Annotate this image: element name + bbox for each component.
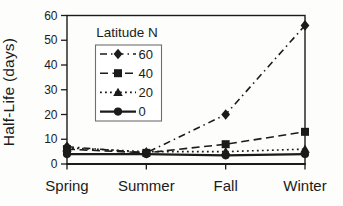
marker-circle xyxy=(142,150,150,158)
y-tick-label: 50 xyxy=(44,33,58,47)
y-tick-label: 60 xyxy=(44,9,58,23)
legend-title: Latitude N xyxy=(96,25,158,40)
legend-entry-label: 20 xyxy=(139,85,153,100)
marker-circle xyxy=(114,108,122,116)
plot-root: 0102030405060SpringSummerFallWinterLatit… xyxy=(44,9,327,194)
y-tick-label: 20 xyxy=(44,108,58,122)
marker-circle xyxy=(63,150,71,158)
x-category-label: Fall xyxy=(214,177,238,194)
y-tick-label: 40 xyxy=(44,58,58,72)
x-category-label: Summer xyxy=(118,177,175,194)
y-axis-title: Half-Life (days) xyxy=(0,38,17,146)
y-tick-label: 30 xyxy=(44,83,58,97)
legend-entry-label: 0 xyxy=(139,104,146,119)
legend-entry-label: 40 xyxy=(139,66,153,81)
y-tick-label: 0 xyxy=(51,157,58,171)
marker-circle xyxy=(222,151,230,159)
marker-square xyxy=(114,69,122,77)
x-category-label: Spring xyxy=(45,177,88,194)
marker-square xyxy=(301,128,309,136)
legend-entry-label: 60 xyxy=(139,47,153,62)
chart-figure: Half-Life (days) 0102030405060SpringSumm… xyxy=(0,0,343,206)
legend: Latitude N6040200 xyxy=(96,25,162,121)
x-category-label: Winter xyxy=(283,177,326,194)
marker-square xyxy=(222,140,230,148)
series-line-0 xyxy=(67,154,305,155)
plot-area: Half-Life (days) 0102030405060SpringSumm… xyxy=(0,0,343,206)
y-tick-label: 10 xyxy=(44,132,58,146)
marker-circle xyxy=(301,150,309,158)
marker-diamond xyxy=(221,109,230,120)
